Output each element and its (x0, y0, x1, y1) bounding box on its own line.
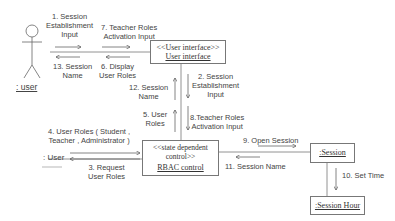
session-object[interactable]: :Session (310, 143, 355, 163)
message-3-label: 3. Request User Roles (88, 163, 125, 181)
session-hour-name: :Session Hour (315, 201, 360, 210)
message-11-label: 11. Session Name (225, 162, 286, 171)
message-9-label: 9. Open Session (243, 136, 298, 145)
message-12-label: 12. Session Name (129, 83, 168, 101)
user-interface-stereotype: <<User interface>> (151, 43, 225, 52)
rbac-control-object[interactable]: <<state dependent control>> RBAC control (142, 140, 219, 176)
rbac-stereotype-line1: <<state dependent (143, 143, 218, 152)
actor-icon (22, 25, 42, 78)
actor-label: : user (16, 83, 37, 92)
message-13-label: 13. Session Name (53, 62, 92, 80)
message-5-label: 5. User Roles (143, 110, 167, 128)
message-10-label: 10. Set Time (342, 171, 384, 180)
message-8-label: 8.Teacher Roles Activation Input (190, 113, 244, 131)
session-name: :Session (319, 148, 346, 157)
user-interface-object[interactable]: <<User interface>> User interface (150, 40, 226, 64)
rbac-control-name: RBAC control (143, 163, 218, 172)
message-1-label: 1. Session Establishment Input (46, 12, 93, 39)
message-6-label: 6. Display User Roles (99, 62, 136, 80)
user-interface-name: User interface (151, 52, 225, 61)
message-7-label: 7. Teacher Roles Activation Input (101, 23, 157, 41)
rbac-stereotype-line2: control>> (143, 152, 218, 161)
external-user-label: : User (43, 153, 64, 162)
message-4-label: 4. User Roles ( Student , Teacher , Admi… (48, 127, 130, 145)
message-2-label: 2. Session Establishment Input (192, 72, 239, 99)
session-hour-object[interactable]: :Session Hour (310, 196, 365, 215)
